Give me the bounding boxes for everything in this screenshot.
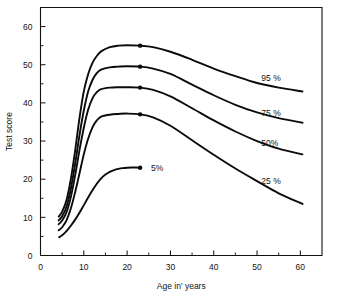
y-tick-label-0: 0: [28, 251, 33, 261]
x-axis-ticks: [41, 251, 301, 256]
y-axis-tick-labels: 0102030405060: [23, 22, 33, 261]
curve-95-percentile: [59, 45, 303, 216]
series-label-95: 95 %: [261, 73, 281, 83]
peak-marker-5: [138, 166, 142, 170]
series-labels: 95 %75 %50%25 %5%: [151, 73, 281, 186]
y-axis-ticks: [41, 27, 46, 237]
peak-marker-25: [138, 112, 142, 116]
x-axis-tick-labels: 0102030405060: [38, 262, 305, 272]
x-axis-title: Age in' years: [157, 281, 206, 291]
x-tick-label-0: 0: [38, 262, 43, 272]
test-score-vs-age-chart: 0102030405060 0102030405060 95 %75 %50%2…: [0, 0, 337, 297]
curve-25-percentile: [59, 114, 303, 231]
chart-figure: 0102030405060 0102030405060 95 %75 %50%2…: [0, 0, 337, 297]
peak-marker-50: [138, 85, 142, 89]
series-label-50: 50%: [261, 138, 278, 148]
series-label-5: 5%: [151, 163, 164, 173]
y-tick-label-20: 20: [23, 174, 33, 184]
series-label-25: 25 %: [261, 176, 281, 186]
y-axis-title: Test score: [4, 112, 14, 151]
x-tick-label-10: 10: [79, 262, 89, 272]
y-tick-label-50: 50: [23, 60, 33, 70]
x-tick-label-20: 20: [122, 262, 132, 272]
peak-marker-75: [138, 64, 142, 68]
y-tick-label-30: 30: [23, 136, 33, 146]
y-tick-label-10: 10: [23, 213, 33, 223]
x-tick-label-40: 40: [209, 262, 219, 272]
y-tick-label-60: 60: [23, 22, 33, 32]
x-tick-label-60: 60: [296, 262, 306, 272]
y-tick-label-40: 40: [23, 98, 33, 108]
x-tick-label-50: 50: [252, 262, 262, 272]
peak-marker-95: [138, 43, 142, 47]
x-tick-label-30: 30: [166, 262, 176, 272]
series-label-75: 75 %: [261, 108, 281, 118]
peak-markers: [138, 43, 142, 169]
